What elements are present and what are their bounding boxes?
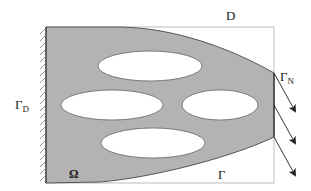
hatched-wall-icon [40,28,46,181]
subscript: N [288,76,295,86]
gamma-symbol: Γ [218,167,226,182]
hole-top [98,51,202,81]
design-domain-text: D [226,8,235,23]
load-arrows [274,73,295,175]
omega-symbol: Ω [69,167,79,181]
free-boundary-label: Γ [218,168,226,181]
design-domain-label: D [226,9,235,22]
subscript: D [23,104,30,114]
gamma-symbol: Γ [280,69,288,84]
arrow-icon [274,137,295,175]
hole-middle-right [182,90,258,120]
hole-middle-left [61,90,163,120]
domain-label: Ω [69,168,79,180]
neumann-boundary-label: ΓN [280,70,294,86]
dirichlet-boundary-label: ΓD [15,98,29,114]
arrow-icon [274,105,295,143]
shape-optimization-diagram [0,0,311,191]
hole-bottom [101,128,205,158]
gamma-symbol: Γ [15,97,23,112]
